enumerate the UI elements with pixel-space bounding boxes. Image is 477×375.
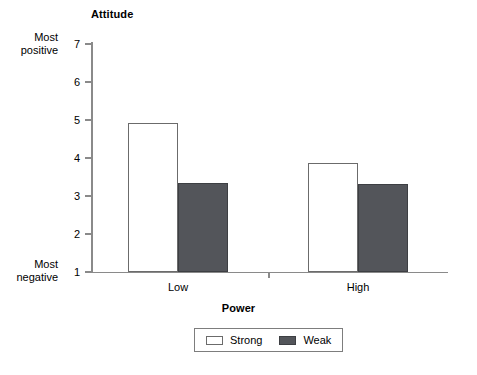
- legend-entry-strong[interactable]: Strong: [206, 334, 262, 346]
- endpoint-negative-line2: negative: [2, 271, 58, 284]
- y-axis-tick: [85, 43, 91, 45]
- x-axis-title: Power: [0, 302, 477, 314]
- y-axis-endpoint-label-negative: Most negative: [2, 258, 58, 283]
- x-axis-separator-tick: [268, 272, 270, 278]
- y-axis-tick-label: 3: [62, 191, 80, 202]
- y-axis-tick: [85, 81, 91, 83]
- y-axis-title: Attitude: [91, 8, 133, 20]
- endpoint-negative-line1: Most: [2, 258, 58, 271]
- endpoint-positive-line1: Most: [2, 31, 58, 44]
- y-axis-tick: [85, 271, 91, 273]
- y-axis-tick-label: 5: [62, 115, 80, 126]
- y-axis-tick-label: 4: [62, 153, 80, 164]
- bar-low-strong: [128, 123, 178, 272]
- y-axis-tick: [85, 195, 91, 197]
- legend-swatch-weak-icon: [279, 336, 296, 345]
- endpoint-positive-line2: positive: [2, 44, 58, 57]
- bar-chart: Attitude Most positive Most negative 765…: [0, 0, 477, 375]
- legend-swatch-strong-icon: [206, 336, 223, 345]
- y-axis-tick: [85, 233, 91, 235]
- bar-low-weak: [178, 183, 228, 272]
- legend-label: Weak: [303, 334, 331, 346]
- bar-high-strong: [308, 163, 358, 272]
- x-axis-category-label: Low: [138, 281, 218, 293]
- bar-high-weak: [358, 184, 408, 272]
- y-axis-tick: [85, 157, 91, 159]
- legend-entry-weak[interactable]: Weak: [279, 334, 331, 346]
- y-axis-endpoint-label-positive: Most positive: [2, 31, 58, 56]
- y-axis-tick-label: 1: [62, 267, 80, 278]
- x-axis-category-label: High: [318, 281, 398, 293]
- y-axis-tick-label: 2: [62, 229, 80, 240]
- legend: StrongWeak: [194, 328, 343, 352]
- legend-label: Strong: [230, 334, 262, 346]
- y-axis-tick-label: 7: [62, 39, 80, 50]
- y-axis-tick: [85, 119, 91, 121]
- y-axis-line: [91, 42, 93, 273]
- y-axis-tick-label: 6: [62, 77, 80, 88]
